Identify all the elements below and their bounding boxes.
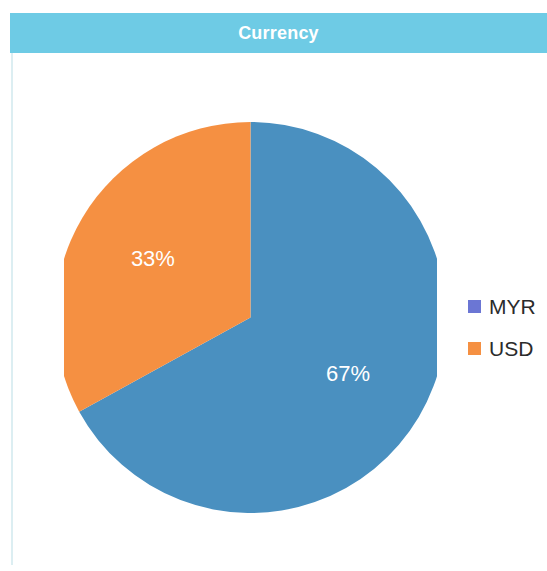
legend-item-myr[interactable]: MYR [468, 285, 547, 327]
legend-item-usd[interactable]: USD [468, 327, 547, 369]
pie-slice-label-myr: 67% [326, 361, 370, 386]
currency-pie-chart-widget: Currency 67% 33% MYR USD [0, 0, 547, 571]
pie-chart: 67% 33% [64, 122, 437, 513]
page-title: Currency [238, 23, 319, 44]
pie-slice-label-usd: 33% [131, 246, 175, 271]
chart-legend: MYR USD [468, 285, 547, 369]
chart-plot-area: 67% 33% MYR USD [13, 53, 547, 565]
legend-swatch-myr [468, 300, 481, 313]
legend-swatch-usd [468, 342, 481, 355]
legend-label-myr: MYR [489, 296, 536, 317]
legend-label-usd: USD [489, 338, 533, 359]
pie-chart-svg: 67% 33% [64, 122, 437, 513]
chart-header-bar: Currency [10, 13, 547, 53]
